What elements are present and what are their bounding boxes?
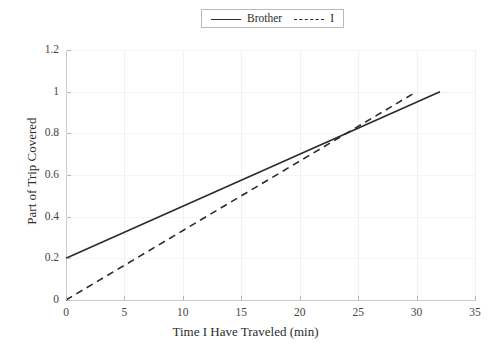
y-axis-tick <box>67 133 71 134</box>
x-axis-tick-label: 25 <box>352 307 364 319</box>
legend-label-brother: Brother <box>247 13 282 25</box>
x-axis-tick <box>475 296 476 300</box>
legend-label-i: I <box>330 13 334 25</box>
legend-line-solid-icon <box>211 14 241 24</box>
x-axis-tick-label: 15 <box>236 307 248 319</box>
legend-line-dashed-icon <box>294 14 324 24</box>
y-axis-tick <box>67 300 71 301</box>
series-line-i <box>66 92 417 300</box>
x-axis-tick-label: 10 <box>177 307 189 319</box>
series-line-brother <box>66 92 440 259</box>
x-axis-tick <box>358 296 359 300</box>
y-axis-tick <box>67 175 71 176</box>
y-axis-tick-label: 0 <box>28 294 59 306</box>
x-axis-tick <box>183 296 184 300</box>
y-axis-tick <box>67 217 71 218</box>
series-layer <box>66 50 475 300</box>
x-axis-tick-label: 5 <box>122 307 128 319</box>
legend-entry-brother: Brother <box>211 13 282 25</box>
x-axis-title: Time I Have Traveled (min) <box>0 324 491 340</box>
gridline-vertical <box>475 50 476 300</box>
x-axis-line <box>66 300 476 301</box>
x-axis-tick-label: 0 <box>63 307 69 319</box>
x-axis-tick <box>417 296 418 300</box>
line-chart: Brother I 0510152025303500.20.40.60.811.… <box>0 0 491 358</box>
y-axis-tick <box>67 92 71 93</box>
y-axis-tick <box>67 50 71 51</box>
legend-entry-i: I <box>294 13 334 25</box>
x-axis-tick-label: 30 <box>411 307 423 319</box>
plot-area <box>66 50 475 300</box>
chart-legend: Brother I <box>201 9 344 28</box>
x-axis-tick-label: 35 <box>469 307 481 319</box>
y-axis-tick <box>67 258 71 259</box>
y-axis-tick-label: 1.2 <box>28 44 59 56</box>
x-axis-tick <box>241 296 242 300</box>
x-axis-tick-label: 20 <box>294 307 306 319</box>
x-axis-tick <box>124 296 125 300</box>
x-axis-tick <box>300 296 301 300</box>
y-axis-title: Part of Trip Covered <box>24 61 40 281</box>
